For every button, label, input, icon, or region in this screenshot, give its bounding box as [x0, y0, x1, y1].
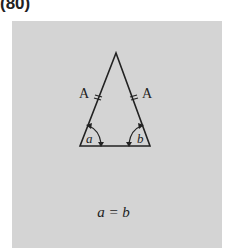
equation: a = b [0, 204, 227, 221]
angle-label-a: a [86, 131, 93, 147]
side-label-left: A [79, 86, 89, 102]
side-label-right: A [142, 86, 152, 102]
angle-label-b: b [137, 131, 144, 147]
